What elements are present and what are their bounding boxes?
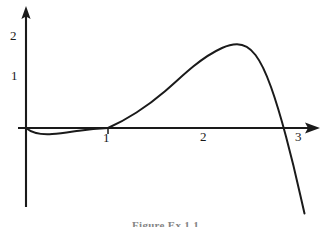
y-axis-tick-label-2: 2 xyxy=(10,29,17,42)
y-axis-tick-label-1: 1 xyxy=(11,69,18,82)
x-axis-tick-label-1: 1 xyxy=(103,131,110,144)
plot-canvas xyxy=(0,0,331,227)
x-axis-tick-label-3: 3 xyxy=(295,130,302,143)
figure-container: 2 1 1 2 3 Figure Ex 1.1 xyxy=(0,0,331,227)
figure-caption: Figure Ex 1.1 xyxy=(0,219,331,227)
x-axis-tick-label-2: 2 xyxy=(200,130,207,143)
